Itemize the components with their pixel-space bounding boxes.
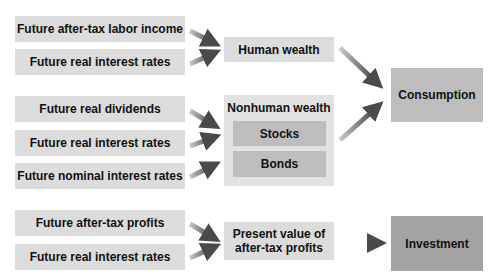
- input-labor-income-label: Future after-tax labor income: [17, 22, 183, 36]
- investment-box: Investment: [391, 216, 483, 271]
- stocks-box: Stocks: [233, 121, 326, 146]
- input-real-rates-2: Future real interest rates: [15, 130, 185, 156]
- present-value-label-2: after-tax profits: [235, 241, 323, 255]
- arrow-rates2-to-nonhuman: [190, 138, 212, 146]
- arrow-human-to-consumption: [340, 48, 376, 82]
- human-wealth-box: Human wealth: [224, 37, 334, 62]
- arrow-nonhuman-to-consumption: [340, 108, 376, 140]
- input-real-rates-3: Future real interest rates: [15, 244, 185, 270]
- arrow-dividends-to-nonhuman: [190, 111, 212, 124]
- arrow-labor-to-human: [190, 31, 212, 42]
- stocks-label: Stocks: [260, 127, 299, 141]
- present-value-box: Present value of after-tax profits: [224, 222, 334, 260]
- input-real-dividends: Future real dividends: [15, 96, 185, 122]
- nonhuman-wealth-label: Nonhuman wealth: [227, 101, 330, 115]
- input-real-dividends-label: Future real dividends: [39, 102, 160, 116]
- consumption-box: Consumption: [391, 68, 483, 122]
- input-nominal-rates-label: Future nominal interest rates: [17, 169, 182, 183]
- input-real-rates-1: Future real interest rates: [15, 49, 185, 75]
- input-nominal-rates: Future nominal interest rates: [15, 163, 185, 189]
- arrow-profits-to-pv: [190, 224, 212, 237]
- arrow-rates1-to-human: [190, 54, 212, 64]
- arrow-nominal-to-nonhuman: [190, 166, 212, 177]
- input-real-rates-1-label: Future real interest rates: [30, 55, 171, 69]
- input-aftertax-profits-label: Future after-tax profits: [36, 216, 165, 230]
- consumption-label: Consumption: [398, 88, 475, 102]
- input-labor-income: Future after-tax labor income: [15, 16, 185, 42]
- bonds-box: Bonds: [233, 151, 326, 177]
- input-real-rates-2-label: Future real interest rates: [30, 136, 171, 150]
- input-aftertax-profits: Future after-tax profits: [15, 210, 185, 236]
- bonds-label: Bonds: [261, 157, 298, 171]
- input-real-rates-3-label: Future real interest rates: [30, 250, 171, 264]
- present-value-label-1: Present value of: [233, 227, 326, 241]
- human-wealth-label: Human wealth: [238, 43, 319, 57]
- investment-label: Investment: [405, 237, 468, 251]
- arrow-rates3-to-pv: [190, 248, 212, 258]
